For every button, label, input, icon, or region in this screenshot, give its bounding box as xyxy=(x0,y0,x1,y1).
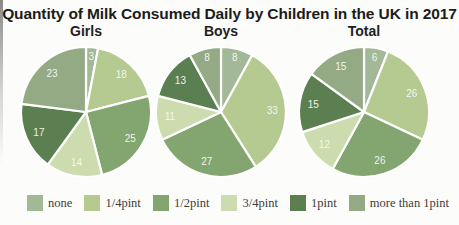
pie-slice-more-than-1pint xyxy=(22,47,86,112)
legend-swatch-quarter-pint xyxy=(84,195,100,211)
pie-chart-boys: Boys 8332711138 xyxy=(151,22,291,182)
pie-chart-total: Total 62626121515 xyxy=(294,22,434,182)
legend-swatch-one-pint xyxy=(290,195,306,211)
legend-item-quarter-pint: 1/4pint xyxy=(84,195,140,211)
legend-label-more-than-one-pint: more than 1pint xyxy=(370,196,449,211)
legend-label-one-pint: 1pint xyxy=(311,196,337,211)
pie-svg-total: 62626121515 xyxy=(294,42,434,182)
legend-swatch-three-quarter-pint xyxy=(221,195,237,211)
pie-slice-value: 8 xyxy=(204,52,210,63)
legend-item-half-pint: 1/2pint xyxy=(153,195,209,211)
pie-slice-value: 15 xyxy=(308,99,320,110)
legend-label-half-pint: 1/2pint xyxy=(174,196,209,211)
legend-label-quarter-pint: 1/4pint xyxy=(105,196,140,211)
legend-label-three-quarter-pint: 3/4pint xyxy=(242,196,277,211)
legend-item-one-pint: 1pint xyxy=(290,195,337,211)
pie-slice-value: 14 xyxy=(71,157,83,168)
pie-slice-value: 25 xyxy=(125,133,137,144)
legend-item-three-quarter-pint: 3/4pint xyxy=(221,195,277,211)
pie-slice-value: 26 xyxy=(406,88,418,99)
chart-page: Quantity of Milk Consumed Daily by Child… xyxy=(0,0,459,225)
pie-slice-value: 23 xyxy=(46,68,58,79)
pie-slice-value: 6 xyxy=(372,52,378,63)
pie-title-boys: Boys xyxy=(151,22,291,40)
pie-slice-value: 8 xyxy=(232,52,238,63)
legend-item-more-than-one-pint: more than 1pint xyxy=(349,195,449,211)
page-title: Quantity of Milk Consumed Daily by Child… xyxy=(0,5,459,23)
pie-title-total: Total xyxy=(294,22,434,40)
pie-svg-boys: 8332711138 xyxy=(151,42,291,182)
pie-slice-value: 15 xyxy=(335,61,347,72)
pie-title-girls: Girls xyxy=(16,22,156,40)
pie-svg-girls: 31825141723 xyxy=(16,42,156,182)
pie-chart-girls: Girls 31825141723 xyxy=(16,22,156,182)
pie-slice-value: 18 xyxy=(116,69,128,80)
pie-slice-value: 13 xyxy=(175,75,187,86)
legend-swatch-none xyxy=(27,195,43,211)
page-edge-shadow xyxy=(0,0,3,165)
pie-slice-value: 3 xyxy=(89,51,95,62)
legend-swatch-more-than-one-pint xyxy=(349,195,365,211)
pie-slice-value: 26 xyxy=(374,155,386,166)
pie-slice-value: 33 xyxy=(267,105,279,116)
legend-label-none: none xyxy=(48,196,72,211)
pie-slice-value: 12 xyxy=(319,139,331,150)
pie-slice-value: 11 xyxy=(165,111,176,122)
pie-slice-value: 17 xyxy=(33,127,45,138)
legend: none 1/4pint 1/2pint 3/4pint 1pint more … xyxy=(27,195,449,211)
legend-swatch-half-pint xyxy=(153,195,169,211)
pie-slice-value: 27 xyxy=(201,156,213,167)
legend-item-none: none xyxy=(27,195,72,211)
